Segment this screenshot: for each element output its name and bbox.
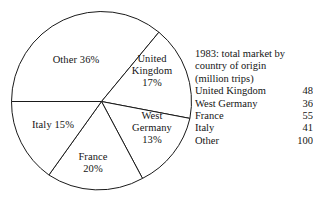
pie-label-uk-line1: United [121, 53, 183, 65]
pie-label-france-line1: France [63, 151, 123, 163]
legend-caption-line-2: country of origin [195, 60, 313, 72]
legend-row-name: United Kingdom [195, 85, 266, 97]
legend-row: France55 [195, 110, 313, 122]
legend-row-value: 48 [297, 85, 314, 97]
pie-label-italy: Italy 15% [18, 119, 88, 131]
legend-rows: United Kingdom48West Germany36France55It… [195, 85, 313, 147]
legend-row: Other100 [195, 135, 313, 147]
legend-row-value: 41 [297, 122, 314, 134]
legend-row: West Germany36 [195, 98, 313, 110]
legend-row: United Kingdom48 [195, 85, 313, 97]
legend-row-name: France [195, 110, 224, 122]
legend-caption-line-1: 1983: total market by [195, 48, 313, 60]
pie-label-uk-line3: 17% [121, 77, 183, 89]
legend-caption-line-3: (million trips) [195, 73, 313, 85]
legend-row-name: Other [195, 135, 219, 147]
pie-label-west-germany-line1: West [119, 110, 185, 122]
pie-chart-figure: Other 36% United Kingdom 17% West German… [0, 0, 313, 205]
pie-label-west-germany-line3: 13% [119, 134, 185, 146]
pie-label-italy-line1: Italy 15% [18, 119, 88, 131]
pie-label-united-kingdom: United Kingdom 17% [121, 53, 183, 90]
legend-row-value: 36 [297, 98, 314, 110]
pie-label-france-line2: 20% [63, 163, 123, 175]
chart-legend: 1983: total market by country of origin … [195, 48, 313, 147]
pie-label-uk-line2: Kingdom [121, 65, 183, 77]
pie-label-west-germany: West Germany 13% [119, 110, 185, 147]
legend-row: Italy41 [195, 122, 313, 134]
legend-row-name: Italy [195, 122, 214, 134]
pie-label-other: Other 36% [38, 54, 114, 66]
pie-label-other-line1: Other 36% [38, 54, 114, 66]
pie-label-france: France 20% [63, 151, 123, 175]
legend-row-value: 100 [291, 135, 313, 147]
legend-row-name: West Germany [195, 98, 257, 110]
legend-row-value: 55 [297, 110, 314, 122]
pie-label-west-germany-line2: Germany [119, 122, 185, 134]
